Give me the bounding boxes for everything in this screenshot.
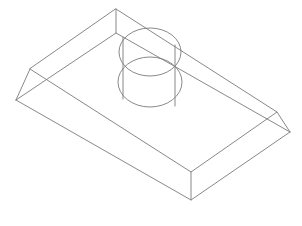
block-edge-right [277,112,290,132]
block-bottom-edges [16,100,290,200]
wireframe-drawing [0,0,302,226]
block-back-bottom-edges [16,33,290,132]
drawing-canvas [0,0,302,226]
cylinder-bottom-ellipse [118,57,182,107]
block-top-face [30,9,277,172]
